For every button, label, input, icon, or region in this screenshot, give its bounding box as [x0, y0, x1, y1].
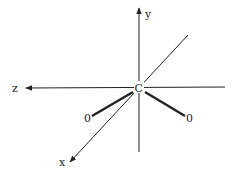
right-oxygen-label: 0	[186, 112, 193, 125]
z-axis	[26, 87, 225, 88]
diagram-canvas: C 0 0 y z x	[0, 0, 235, 172]
molecule-axes-diagram: C 0 0 y z x	[0, 0, 235, 172]
x-axis	[70, 35, 188, 162]
left-oxygen-label: 0	[84, 112, 91, 125]
bond-left	[92, 92, 133, 116]
x-axis-label: x	[59, 156, 66, 169]
bond-right	[145, 92, 185, 116]
carbon-atom-label: C	[135, 82, 143, 95]
y-axis-label: y	[144, 8, 152, 21]
z-axis-label: z	[12, 82, 18, 95]
